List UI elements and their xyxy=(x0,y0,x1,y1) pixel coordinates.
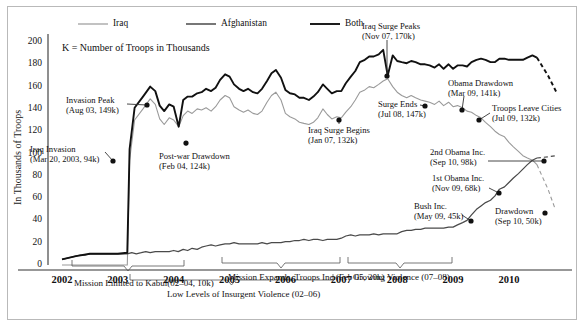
annotation-iraq-surge-peaks: Iraq Surge Peaks(Nov 07, 170k) xyxy=(362,22,420,41)
annotation-iraq-invasion: Iraq Invasion(Mar 20, 2003, 94k) xyxy=(30,145,99,164)
annotation-marker-iraq-surge-peaks xyxy=(384,73,389,78)
annotation-marker-first-obama-inc xyxy=(496,190,501,195)
annotation-obama-drawdown: Obama Drawdown(Mar 09, 141k) xyxy=(448,79,513,98)
annotation-title: Surge Ends xyxy=(378,99,417,109)
annotation-detail: (Jan 07, 132k) xyxy=(308,136,370,146)
annotation-detail: (Sep 10, 50k) xyxy=(495,217,542,227)
annotation-surge-ends: Surge Ends(Jul 08, 147k) xyxy=(378,100,426,119)
annotation-marker-second-obama-inc xyxy=(541,158,546,163)
bracket-detail: (02–04, 10k) xyxy=(167,278,214,288)
annotation-marker-drawdown xyxy=(542,210,547,215)
legend-label-afghanistan: Afghanistan xyxy=(221,18,267,29)
series-line-iraq xyxy=(62,79,537,265)
annotation-detail: (Sep 10, 98k) xyxy=(430,158,485,168)
y-tick-label-200: 200 xyxy=(16,36,42,47)
annotation-title: Obama Drawdown xyxy=(448,78,513,88)
troops-unit-note: K = Number of Troops in Thousands xyxy=(62,42,210,53)
annotation-title: Iraq Surge Begins xyxy=(308,125,370,135)
annotation-iraq-surge-begins: Iraq Surge Begins(Jan 07, 132k) xyxy=(308,126,370,145)
annotation-invasion-peak: Invasion Peak(Aug 03, 149k) xyxy=(66,96,119,115)
annotation-marker-post-war-drawdown xyxy=(183,140,188,145)
y-tick-label-0: 0 xyxy=(16,259,42,270)
legend-label-both: Both xyxy=(345,18,363,29)
annotation-detail: (Jul 09, 132k) xyxy=(492,114,561,124)
annotation-title: 1st Obama Inc. xyxy=(432,173,484,183)
y-tick-label-180: 180 xyxy=(16,58,42,69)
bracket-title: Growing Violence (07–08) xyxy=(353,272,450,282)
x-tick-label-2010: 2010 xyxy=(483,274,535,286)
annotation-post-war-drawdown: Post-war Drawdown(Feb 04, 124k) xyxy=(159,152,230,171)
annotation-first-obama-inc: 1st Obama Inc.(Nov 09, 68k) xyxy=(432,174,484,193)
annotation-detail: (Nov 07, 170k) xyxy=(362,32,420,42)
series-dashed-iraq xyxy=(537,165,555,210)
annotation-title: Post-war Drawdown xyxy=(159,151,230,161)
annotation-detail: (Mar 20, 2003, 94k) xyxy=(30,155,99,165)
bracket-title: Low Levels of Insurgent Violence (02–06) xyxy=(167,289,320,299)
annotation-detail: (May 09, 45k) xyxy=(414,212,463,222)
annotation-bush-inc: Bush Inc.(May 09, 45k) xyxy=(414,202,463,221)
annotation-drawdown: Drawdown(Sep 10, 50k) xyxy=(495,207,542,226)
annotation-marker-obama-drawdown xyxy=(459,107,464,112)
annotation-detail: (Nov 09, 68k) xyxy=(432,184,484,194)
y-tick-label-20: 20 xyxy=(16,237,42,248)
bracket-label-growing-violence: Growing Violence (07–08) xyxy=(353,272,450,282)
annotation-marker-troops-leave-cities xyxy=(476,117,481,122)
annotation-troops-leave-cities: Troops Leave Cities(Jul 09, 132k) xyxy=(492,104,561,123)
bracket-growing-violence xyxy=(348,257,452,268)
annotation-title: Invasion Peak xyxy=(66,95,114,105)
annotation-title: Bush Inc. xyxy=(414,201,447,211)
annotation-detail: (Jul 08, 147k) xyxy=(378,110,426,120)
y-tick-label-40: 40 xyxy=(16,214,42,225)
annotation-marker-iraq-surge-begins xyxy=(336,117,341,122)
annotation-detail: (Aug 03, 149k) xyxy=(66,106,119,116)
annotation-title: Troops Leave Cities xyxy=(492,103,561,113)
annotation-title: 2nd Obama Inc. xyxy=(430,147,485,157)
series-dashed-afghanistan xyxy=(537,156,555,158)
bracket-mission-expands xyxy=(222,257,340,268)
annotation-title: Iraq Surge Peaks xyxy=(362,21,420,31)
annotation-marker-iraq-invasion xyxy=(110,158,115,163)
annotation-marker-bush-inc xyxy=(468,218,473,223)
annotation-title: Iraq Invasion xyxy=(30,144,76,154)
bracket-title: Mission Limited to Kabul xyxy=(74,278,167,288)
annotation-detail: (Feb 04, 124k) xyxy=(159,162,230,172)
bracket-label-mission-limited-kabul: Mission Limited to Kabul(02–04, 10k) xyxy=(74,278,214,288)
legend-label-iraq: Iraq xyxy=(113,18,128,29)
annotation-leader-invasion-peak xyxy=(127,104,147,105)
annotation-second-obama-inc: 2nd Obama Inc.(Sep 10, 98k) xyxy=(430,148,485,167)
y-tick-label-160: 160 xyxy=(16,81,42,92)
bracket-label-low-levels-insurgent-violence: Low Levels of Insurgent Violence (02–06) xyxy=(167,289,320,299)
annotation-detail: (Mar 09, 141k) xyxy=(448,89,513,99)
bracket-title: Mission Expands, Troops Inc. xyxy=(228,272,336,282)
annotation-marker-invasion-peak xyxy=(144,102,149,107)
y-axis-title: In Thousands of Troops xyxy=(12,110,23,205)
chart-page: 020406080100120140160180200In Thousands … xyxy=(0,0,584,329)
annotation-title: Drawdown xyxy=(495,206,533,216)
series-dashed-both xyxy=(537,58,557,93)
